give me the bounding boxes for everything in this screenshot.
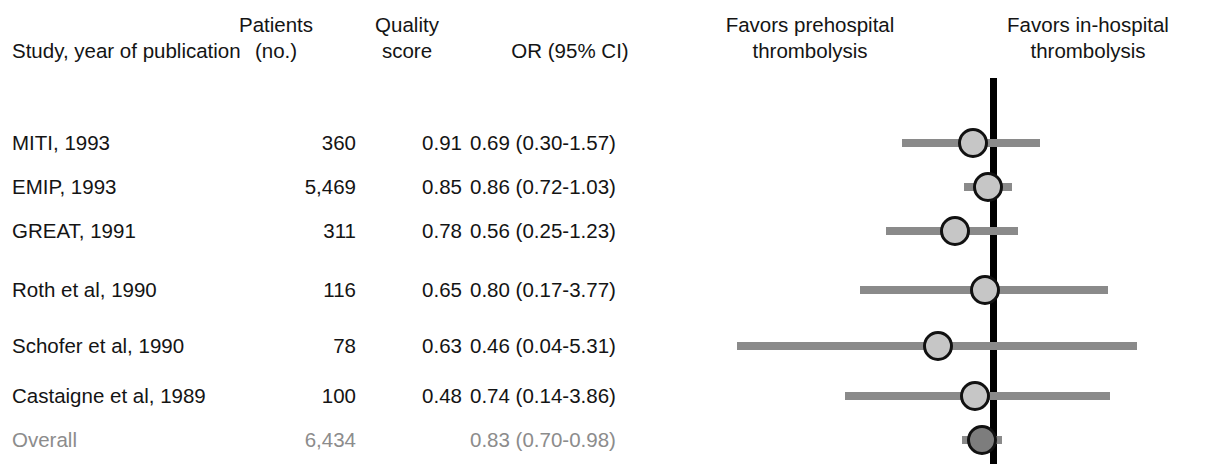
row-odds-ratio-ci: 0.69 (0.30-1.57) — [470, 128, 680, 158]
row-odds-ratio-ci: 0.74 (0.14-3.86) — [470, 381, 680, 411]
row-patients-count: 6,434 — [196, 425, 356, 455]
row-quality-score: 0.91 — [352, 128, 462, 158]
row-quality-score: 0.63 — [352, 331, 462, 361]
table-row: MITI, 19933600.910.69 (0.30-1.57) — [0, 128, 1216, 158]
row-patients-count: 100 — [196, 381, 356, 411]
table-row: GREAT, 19913110.780.56 (0.25-1.23) — [0, 216, 1216, 246]
table-row: EMIP, 19935,4690.850.86 (0.72-1.03) — [0, 172, 1216, 202]
row-patients-count: 311 — [196, 216, 356, 246]
row-patients-count: 360 — [196, 128, 356, 158]
row-odds-ratio-ci: 0.56 (0.25-1.23) — [470, 216, 680, 246]
row-quality-score: 0.65 — [352, 275, 462, 305]
row-odds-ratio-ci: 0.83 (0.70-0.98) — [470, 425, 680, 455]
table-row: Roth et al, 19901160.650.80 (0.17-3.77) — [0, 275, 1216, 305]
row-odds-ratio-ci: 0.46 (0.04-5.31) — [470, 331, 680, 361]
row-patients-count: 116 — [196, 275, 356, 305]
row-quality-score: 0.48 — [352, 381, 462, 411]
row-patients-count: 5,469 — [196, 172, 356, 202]
table-body: MITI, 19933600.910.69 (0.30-1.57)EMIP, 1… — [0, 0, 1216, 464]
table-row: Schofer et al, 1990780.630.46 (0.04-5.31… — [0, 331, 1216, 361]
table-row: Castaigne et al, 19891000.480.74 (0.14-3… — [0, 381, 1216, 411]
row-quality-score: 0.78 — [352, 216, 462, 246]
row-patients-count: 78 — [196, 331, 356, 361]
table-row-overall: Overall6,4340.83 (0.70-0.98) — [0, 425, 1216, 455]
forest-plot-figure: Study, year of publication Patients (no.… — [0, 0, 1216, 464]
row-quality-score: 0.85 — [352, 172, 462, 202]
row-odds-ratio-ci: 0.86 (0.72-1.03) — [470, 172, 680, 202]
row-odds-ratio-ci: 0.80 (0.17-3.77) — [470, 275, 680, 305]
